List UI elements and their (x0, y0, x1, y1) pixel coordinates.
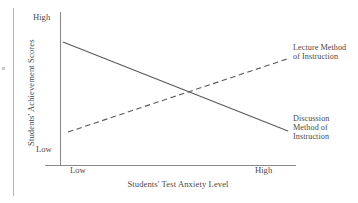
series-line-lecture (68, 58, 290, 132)
left-margin-artifact (2, 67, 5, 70)
y-axis-title: Students' Achievement Scores (27, 23, 36, 163)
x-tick-label-high: High (255, 166, 272, 175)
chart-canvas (0, 0, 358, 203)
y-tick-label-high: High (33, 13, 50, 22)
x-axis-title: Students' Test Anxiety Level (88, 180, 268, 189)
chart-figure: Students' Achievement Scores Students' T… (0, 0, 358, 203)
series-line-discussion (63, 42, 288, 131)
y-tick-label-low: Low (36, 145, 52, 154)
series-annotation-lecture: Lecture Method of Instruction (293, 44, 346, 62)
x-tick-label-low: Low (70, 166, 86, 175)
series-annotation-discussion: Discussion Method of Instruction (293, 115, 329, 142)
